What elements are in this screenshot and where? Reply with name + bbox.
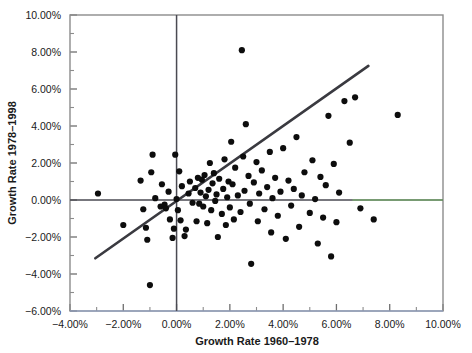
x-axis-tick-labels: −4.00%−2.00%0.00%2.00%4.00%6.00%8.00%10.… (52, 318, 461, 330)
data-point (138, 177, 144, 183)
data-point (328, 253, 334, 259)
scatter-points (95, 47, 401, 288)
data-point (227, 204, 233, 210)
y-tick-label: −2.00% (25, 231, 61, 243)
data-point (277, 189, 283, 195)
data-point (243, 121, 249, 127)
data-point (323, 182, 329, 188)
data-point (307, 210, 313, 216)
data-point (140, 206, 146, 212)
data-point (296, 224, 302, 230)
y-axis-title: Growth Rate 1978–1998 (6, 101, 18, 225)
x-tick-label: −4.00% (52, 318, 88, 330)
data-point (315, 240, 321, 246)
y-tick-label: 2.00% (31, 157, 61, 169)
data-point (347, 140, 353, 146)
data-point (163, 205, 169, 211)
data-point (333, 219, 339, 225)
data-point (149, 152, 155, 158)
data-point (264, 184, 270, 190)
y-tick-label: −4.00% (25, 268, 61, 280)
data-point (325, 113, 331, 119)
data-point (223, 222, 229, 228)
data-point (280, 145, 286, 151)
data-point (205, 187, 211, 193)
data-point (147, 282, 153, 288)
data-point (208, 207, 214, 213)
data-point (173, 196, 179, 202)
x-tick-label: 4.00% (268, 318, 298, 330)
data-point (352, 94, 358, 100)
data-point (143, 225, 149, 231)
data-point (221, 156, 227, 162)
data-point (331, 161, 337, 167)
y-tick-label: −6.00% (25, 305, 61, 317)
data-point (229, 181, 235, 187)
data-point (201, 172, 207, 178)
data-point (241, 188, 247, 194)
y-tick-label: 10.00% (25, 9, 61, 21)
data-point (341, 98, 347, 104)
data-point (240, 153, 246, 159)
data-point (317, 174, 323, 180)
data-point (272, 175, 278, 181)
data-point (212, 198, 218, 204)
data-point (172, 152, 178, 158)
data-point (209, 180, 215, 186)
data-point (224, 194, 230, 200)
data-point (167, 216, 173, 222)
data-point (219, 211, 225, 217)
data-point (228, 139, 234, 145)
data-point (336, 190, 342, 196)
data-point (95, 190, 101, 196)
data-point (357, 205, 363, 211)
data-point (312, 196, 318, 202)
data-point (293, 134, 299, 140)
data-point (261, 206, 267, 212)
data-point (197, 190, 203, 196)
scatter-chart-figure: −6.00%−4.00%−2.00%0.00%2.00%4.00%6.00%8.… (0, 0, 472, 353)
data-point (152, 195, 158, 201)
data-point (301, 169, 307, 175)
data-point (176, 168, 182, 174)
data-point (171, 226, 177, 232)
data-point (268, 229, 274, 235)
data-point (237, 209, 243, 215)
data-point (255, 218, 261, 224)
data-point (185, 190, 191, 196)
chart-canvas: −6.00%−4.00%−2.00%0.00%2.00%4.00%6.00%8.… (0, 0, 472, 353)
x-tick-label: 0.00% (162, 318, 192, 330)
data-point (248, 261, 254, 267)
data-point (235, 192, 241, 198)
data-point (148, 169, 154, 175)
data-point (239, 47, 245, 53)
data-point (285, 177, 291, 183)
y-tick-label: 8.00% (31, 46, 61, 58)
data-point (169, 235, 175, 241)
data-point (395, 112, 401, 118)
data-point (232, 165, 238, 171)
data-point (192, 185, 198, 191)
data-point (165, 189, 171, 195)
data-point (283, 236, 289, 242)
x-tick-label: 6.00% (322, 318, 352, 330)
data-point (251, 179, 257, 185)
data-point (207, 160, 213, 166)
x-tick-label: 2.00% (215, 318, 245, 330)
data-point (216, 176, 222, 182)
data-point (253, 159, 259, 165)
data-point (220, 186, 226, 192)
x-tick-label: 10.00% (425, 318, 461, 330)
x-axis-title: Growth Rate 1960–1978 (195, 335, 319, 347)
data-point (177, 217, 183, 223)
data-point (215, 234, 221, 240)
data-point (269, 195, 275, 201)
data-point (259, 167, 265, 173)
data-point (288, 202, 294, 208)
data-point (203, 193, 209, 199)
data-point (181, 233, 187, 239)
trend-line (95, 66, 368, 258)
data-point (179, 183, 185, 189)
data-point (275, 213, 281, 219)
data-point (309, 157, 315, 163)
